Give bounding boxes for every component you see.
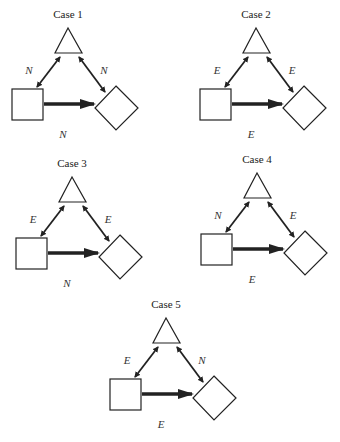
- square-node: [200, 89, 231, 120]
- triangle-node: [244, 173, 271, 198]
- triangle-node: [153, 318, 180, 343]
- bottom-edge-label: N: [59, 128, 66, 140]
- square-node: [110, 379, 141, 410]
- right-edge-label: N: [198, 354, 205, 366]
- case-graph: [188, 0, 338, 145]
- right-edge-label: E: [105, 213, 112, 225]
- left-edge-label: E: [214, 64, 221, 76]
- left-edge-label: E: [124, 354, 131, 366]
- right-edge-label: E: [289, 64, 296, 76]
- case-graph: [4, 149, 154, 294]
- diamond-node: [193, 376, 236, 420]
- triangle-node: [59, 177, 86, 202]
- bottom-edge-label: N: [63, 277, 70, 289]
- case-3-diagram: Case 3 E E N: [4, 149, 154, 294]
- diamond-node: [283, 86, 326, 130]
- left-edge-label: N: [214, 209, 221, 221]
- case-5-diagram: Case 5 E N E: [98, 290, 248, 435]
- square-node: [201, 234, 232, 265]
- left-edge-arrow: [41, 206, 64, 236]
- case-graph: [0, 0, 150, 145]
- triangle-node: [55, 28, 82, 53]
- right-edge-label: N: [100, 64, 107, 76]
- left-edge-arrow: [37, 57, 60, 87]
- bottom-edge-label: E: [158, 418, 165, 430]
- diamond-node: [95, 86, 138, 130]
- case-graph: [98, 290, 248, 435]
- case-4-diagram: Case 4 N E E: [189, 145, 339, 290]
- right-edge-label: E: [290, 209, 297, 221]
- square-node: [16, 238, 47, 269]
- bottom-edge-label: E: [248, 128, 255, 140]
- case-1-diagram: Case 1 N N N: [0, 0, 150, 145]
- case-graph: [189, 145, 339, 290]
- triangle-node: [243, 28, 270, 53]
- left-edge-label: E: [30, 213, 37, 225]
- left-edge-label: N: [25, 64, 32, 76]
- left-edge-arrow: [135, 347, 158, 377]
- diamond-node: [284, 231, 327, 275]
- case-2-diagram: Case 2 E E E: [188, 0, 338, 145]
- bottom-edge-label: E: [249, 273, 256, 285]
- left-edge-arrow: [225, 57, 248, 87]
- left-edge-arrow: [226, 202, 249, 232]
- diamond-node: [99, 235, 142, 279]
- square-node: [12, 89, 43, 120]
